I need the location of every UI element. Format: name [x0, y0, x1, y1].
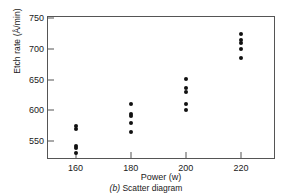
data-point [74, 151, 78, 155]
y-tick-mark [48, 140, 54, 141]
data-point [239, 41, 243, 45]
data-point [239, 32, 243, 36]
data-point [239, 47, 243, 51]
data-point [74, 127, 78, 131]
y-tick-mark [48, 110, 54, 111]
scatter-chart-figure: Etch rate (Å/min) 550600650700750 160180… [0, 0, 292, 194]
y-tick-label: 600 [29, 105, 44, 115]
y-tick-mark [48, 79, 54, 80]
y-axis-label: Etch rate (Å/min) [12, 0, 22, 116]
data-point [74, 146, 78, 150]
data-point [129, 114, 133, 118]
data-point [129, 102, 133, 106]
caption-label: (b) [110, 183, 120, 193]
data-point [184, 86, 188, 90]
x-tick-mark [185, 152, 186, 158]
x-tick-mark [130, 152, 131, 158]
y-tick-label: 700 [29, 44, 44, 54]
x-axis-label: Power (w) [47, 172, 275, 182]
data-point [184, 90, 188, 94]
x-tick-mark [240, 152, 241, 158]
y-tick-mark [48, 18, 54, 19]
plot-area: 550600650700750 160180200220 [47, 16, 275, 159]
data-point [184, 77, 188, 81]
data-point [184, 102, 188, 106]
y-tick-label: 550 [29, 136, 44, 146]
y-tick-label: 750 [29, 13, 44, 23]
y-tick-mark [48, 48, 54, 49]
caption-text: Scatter diagram [122, 183, 182, 193]
data-point [184, 108, 188, 112]
data-point [239, 56, 243, 60]
data-point [129, 121, 133, 125]
data-point [129, 130, 133, 134]
y-tick-label: 650 [29, 75, 44, 85]
figure-caption: (b) Scatter diagram [0, 183, 292, 193]
